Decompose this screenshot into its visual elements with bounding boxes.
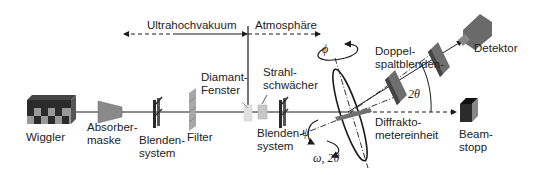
filter-icon bbox=[189, 88, 196, 131]
detector-label: Detektor bbox=[474, 42, 518, 54]
double-slit-label-2: spaltblenden- bbox=[375, 58, 444, 70]
wiggler-label: Wiggler bbox=[26, 131, 65, 143]
psi-label: ψ bbox=[302, 125, 310, 139]
attenuator-icon bbox=[258, 95, 267, 119]
phi-label: ϕ bbox=[322, 42, 328, 56]
slit-system-1-label-1: Blenden- bbox=[139, 134, 185, 146]
slit-system-2-label-1: Blenden- bbox=[257, 127, 303, 139]
beamline-diagram: Ultrahochvakuum Atmosphäre Wiggler Absor… bbox=[0, 0, 536, 175]
diamond-window-label-1: Diamant- bbox=[201, 71, 248, 83]
diamond-window-label-2: Fenster bbox=[201, 84, 240, 96]
double-slit-label-1: Doppel- bbox=[375, 45, 415, 57]
attenuator-label-1: Strahl- bbox=[263, 66, 297, 78]
slit-system-1-label-2: system bbox=[139, 147, 175, 159]
absorber-mask-icon bbox=[98, 101, 122, 123]
atmosphere-label: Atmosphäre bbox=[255, 19, 317, 31]
attenuator-label-2: schwächer bbox=[263, 79, 318, 91]
beam-stop-label-2: stopp bbox=[459, 141, 487, 153]
wiggler-icon bbox=[27, 95, 76, 124]
absorber-label-1: Absorber- bbox=[87, 121, 138, 133]
absorber-label-2: maske bbox=[87, 134, 121, 146]
psi-rotation-arrow bbox=[308, 120, 318, 144]
beam-stop-icon bbox=[460, 98, 478, 122]
omega-label: ω, 2θ bbox=[313, 151, 339, 165]
slit-system-2-label-2: system bbox=[257, 140, 293, 152]
two-theta-label: 2θ bbox=[408, 87, 420, 101]
diffractometer-label-1: Diffrakto- bbox=[375, 116, 422, 128]
beam-stop-label-1: Beam- bbox=[459, 128, 493, 140]
diffractometer-label-2: metereinheit bbox=[375, 129, 439, 141]
vacuum-label: Ultrahochvakuum bbox=[147, 19, 236, 31]
filter-label: Filter bbox=[187, 131, 213, 143]
double-slit-1-icon bbox=[385, 70, 407, 105]
